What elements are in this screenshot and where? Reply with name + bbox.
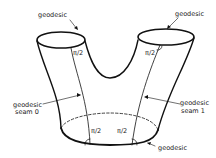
label-angle-bottom-left: π/2 bbox=[91, 128, 101, 135]
waist-geodesic-back bbox=[61, 113, 158, 130]
crotch-curve bbox=[85, 40, 138, 78]
right-cuff-geodesic bbox=[138, 29, 194, 45]
pointer-seam1 bbox=[146, 97, 180, 104]
waist-geodesic-front bbox=[61, 128, 158, 145]
seam-1-line bbox=[132, 45, 160, 145]
label-angle-top-left: π/2 bbox=[73, 50, 83, 57]
label-seam1-line1: geodesic bbox=[180, 100, 209, 107]
label-angle-bottom-right: π/2 bbox=[117, 128, 127, 135]
left-cuff-geodesic bbox=[37, 32, 85, 48]
label-geodesic-top-left: geodesic bbox=[38, 12, 67, 19]
label-seam1-line2: seam 1 bbox=[181, 108, 205, 115]
arrowhead-seam0 bbox=[77, 93, 81, 97]
arrowhead-seam1 bbox=[144, 95, 148, 99]
label-seam0-line2: seam 0 bbox=[15, 109, 39, 116]
label-angle-top-right: π/2 bbox=[145, 50, 155, 57]
label-geodesic-bottom: geodesic bbox=[158, 145, 187, 152]
arrowhead-bottom bbox=[147, 142, 151, 145]
left-outer-edge bbox=[37, 41, 61, 128]
pants-surface-diagram bbox=[0, 0, 216, 158]
right-outer-edge bbox=[158, 38, 194, 130]
arrowhead-top-left bbox=[74, 26, 78, 30]
pointer-seam0 bbox=[43, 95, 80, 104]
label-geodesic-top-right: geodesic bbox=[175, 11, 204, 18]
seam-0-line bbox=[71, 48, 90, 144]
